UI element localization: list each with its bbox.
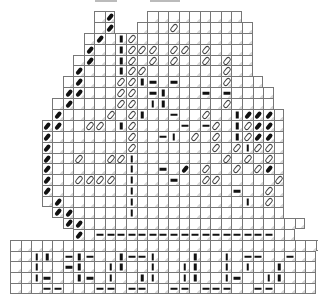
- grid-cell: [84, 272, 95, 283]
- horizontal-dash-icon: [244, 234, 251, 237]
- empty-space: [21, 196, 32, 207]
- empty-space: [31, 98, 42, 109]
- grid-cell: [242, 98, 253, 109]
- empty-space: [263, 22, 274, 33]
- empty-space: [10, 196, 21, 207]
- grid-cell: [242, 163, 253, 174]
- empty-space: [52, 87, 63, 98]
- grid-cell: [200, 120, 211, 131]
- grid-cell: [221, 218, 232, 229]
- grid-cell: [210, 240, 221, 251]
- grid-cell: [42, 142, 53, 153]
- grid-cell: [253, 185, 264, 196]
- hollow-bead-icon: [243, 153, 253, 163]
- empty-space: [284, 120, 295, 131]
- horizontal-dash-icon: [213, 287, 220, 290]
- grid-cell: [137, 44, 148, 55]
- grid-cell: [189, 207, 200, 218]
- grid-cell: [179, 55, 190, 66]
- grid-cell: [147, 174, 158, 185]
- grid-cell: [115, 174, 126, 185]
- grid-cell: [105, 283, 116, 294]
- grid-cell: [105, 22, 116, 33]
- grid-cell: [274, 163, 285, 174]
- black-bead-icon: [43, 122, 51, 130]
- empty-space: [63, 33, 74, 44]
- grid-cell: [126, 163, 137, 174]
- vertical-dash-icon: [120, 253, 123, 260]
- empty-space: [284, 163, 295, 174]
- grid-cell: [137, 163, 148, 174]
- pattern-row: [10, 283, 318, 294]
- grid-cell: [115, 87, 126, 98]
- horizontal-dash-icon: [170, 81, 177, 84]
- grid-cell: [221, 131, 232, 142]
- grid-cell: [115, 153, 126, 164]
- grid-cell: [137, 207, 148, 218]
- grid-cell: [284, 240, 295, 251]
- empty-space: [42, 11, 53, 22]
- grid-cell: [210, 185, 221, 196]
- empty-space: [295, 196, 306, 207]
- grid-cell: [168, 153, 179, 164]
- black-bead-icon: [265, 111, 273, 119]
- grid-cell: [105, 65, 116, 76]
- hollow-bead-icon: [127, 110, 137, 120]
- grid-cell: [158, 11, 169, 22]
- vertical-dash-icon: [236, 122, 239, 129]
- vertical-dash-icon: [120, 35, 123, 42]
- grid-cell: [147, 207, 158, 218]
- black-bead-icon: [181, 165, 189, 173]
- empty-space: [305, 87, 316, 98]
- empty-space: [263, 11, 274, 22]
- grid-cell: [221, 240, 232, 251]
- grid-cell: [73, 251, 84, 262]
- grid-cell: [137, 65, 148, 76]
- empty-space: [295, 142, 306, 153]
- horizontal-dash-icon: [65, 266, 72, 269]
- empty-space: [284, 11, 295, 22]
- grid-cell: [253, 283, 264, 294]
- grid-cell: [179, 65, 190, 76]
- pattern-row: [10, 87, 318, 98]
- grid-cell: [52, 98, 63, 109]
- grid-cell: [168, 76, 179, 87]
- grid-cell: [137, 261, 148, 272]
- grid-cell: [42, 272, 53, 283]
- grid-cell: [52, 251, 63, 262]
- empty-space: [73, 22, 84, 33]
- grid-cell: [158, 196, 169, 207]
- vertical-dash-icon: [141, 111, 144, 118]
- grid-cell: [210, 87, 221, 98]
- grid-cell: [105, 240, 116, 251]
- grid-cell: [158, 98, 169, 109]
- empty-space: [52, 229, 63, 240]
- hollow-bead-icon: [127, 88, 137, 98]
- grid-cell: [158, 87, 169, 98]
- grid-cell: [147, 76, 158, 87]
- empty-space: [295, 153, 306, 164]
- black-bead-icon: [65, 209, 73, 217]
- grid-cell: [274, 272, 285, 283]
- grid-cell: [231, 120, 242, 131]
- grid-cell: [126, 229, 137, 240]
- grid-cell: [147, 109, 158, 120]
- hollow-bead-icon: [138, 66, 148, 76]
- hollow-bead-icon: [95, 121, 105, 131]
- vertical-dash-icon: [120, 57, 123, 64]
- grid-cell: [200, 185, 211, 196]
- hollow-bead-icon: [254, 143, 264, 153]
- grid-cell: [168, 207, 179, 218]
- grid-cell: [221, 76, 232, 87]
- grid-cell: [126, 142, 137, 153]
- grid-cell: [231, 251, 242, 262]
- empty-space: [305, 76, 316, 87]
- empty-space: [284, 65, 295, 76]
- grid-cell: [84, 207, 95, 218]
- empty-space: [305, 163, 316, 174]
- grid-cell: [115, 229, 126, 240]
- hollow-bead-icon: [74, 153, 84, 163]
- grid-cell: [200, 22, 211, 33]
- grid-cell: [105, 229, 116, 240]
- grid-cell: [94, 44, 105, 55]
